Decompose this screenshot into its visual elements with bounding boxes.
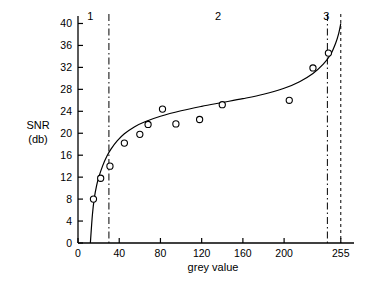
data-point-marker	[137, 131, 143, 137]
x-tick-label: 200	[275, 247, 293, 259]
region-label-2: 2	[215, 10, 221, 22]
data-point-marker	[197, 116, 203, 122]
data-point-marker	[107, 163, 113, 169]
x-axis-label: grey value	[188, 261, 239, 273]
y-axis-label: SNR	[26, 119, 49, 131]
y-tick-label: 32	[60, 61, 72, 73]
y-tick-label: 20	[60, 127, 72, 139]
region-label-3: 3	[323, 10, 329, 22]
data-point-marker	[98, 175, 104, 181]
x-tick-label: 160	[234, 247, 252, 259]
data-point-marker	[325, 50, 331, 56]
y-tick-label: 8	[66, 193, 72, 205]
data-point-marker	[121, 140, 127, 146]
y-tick-label: 40	[60, 17, 72, 29]
y-tick-label: 36	[60, 39, 72, 51]
x-tick-label: 80	[155, 247, 167, 259]
x-tick-label: 255	[332, 247, 350, 259]
x-tick-label: 0	[75, 247, 81, 259]
y-axis-unit-label: (db)	[28, 133, 48, 145]
chart-figure: 048121620242832364004080120160200255SNR(…	[0, 0, 367, 286]
y-tick-label: 28	[60, 83, 72, 95]
data-point-marker	[145, 121, 151, 127]
region-label-1: 1	[87, 10, 93, 22]
x-tick-label: 40	[113, 247, 125, 259]
data-point-marker	[159, 106, 165, 112]
data-point-marker	[90, 196, 96, 202]
y-tick-label: 16	[60, 149, 72, 161]
data-point-marker	[310, 65, 316, 71]
y-tick-label: 4	[66, 215, 72, 227]
y-tick-label: 24	[60, 105, 72, 117]
snr-vs-grey-value-chart: 048121620242832364004080120160200255SNR(…	[0, 0, 367, 286]
fitted-curve	[90, 23, 340, 243]
data-point-marker	[286, 97, 292, 103]
y-tick-label: 12	[60, 171, 72, 183]
y-tick-label: 0	[66, 237, 72, 249]
x-tick-label: 120	[193, 247, 211, 259]
data-point-marker	[173, 121, 179, 127]
data-point-marker	[219, 102, 225, 108]
